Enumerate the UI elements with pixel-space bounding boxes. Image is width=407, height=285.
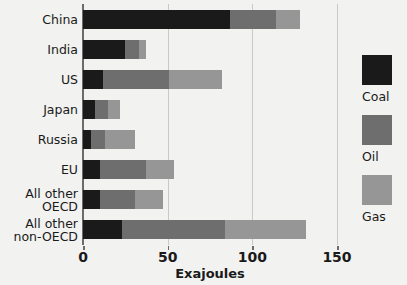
bar-rows <box>83 4 337 245</box>
bar-segment-coal <box>83 10 230 29</box>
y-axis-label: EU <box>0 163 78 176</box>
y-axis-label: Japan <box>0 103 78 116</box>
y-axis-label: US <box>0 73 78 86</box>
x-tick-label: 50 <box>158 249 177 265</box>
bar-row <box>83 220 306 239</box>
bar-row <box>83 130 135 149</box>
legend-item-coal: Coal <box>362 55 407 104</box>
bar-segment-gas <box>108 100 120 119</box>
x-tick-label: 0 <box>78 249 88 265</box>
bar-row <box>83 70 222 89</box>
bar-row <box>83 10 300 29</box>
y-axis-label: Russia <box>0 133 78 146</box>
bar-segment-oil <box>125 40 139 59</box>
bar-segment-oil <box>100 160 146 179</box>
x-axis-ticks: 050100150 <box>83 246 337 264</box>
bar-segment-oil <box>91 130 105 149</box>
bar-segment-coal <box>83 40 125 59</box>
legend-label-coal: Coal <box>362 89 407 104</box>
bar-segment-gas <box>135 190 162 209</box>
plot-area <box>83 4 337 245</box>
x-axis-title: Exajoules <box>83 266 337 281</box>
legend-item-oil: Oil <box>362 115 407 164</box>
bar-segment-gas <box>225 220 306 239</box>
bar-segment-oil <box>100 190 136 209</box>
y-axis-label: All other OECD <box>0 187 78 213</box>
x-tick-label: 150 <box>322 249 351 265</box>
bar-segment-coal <box>83 130 91 149</box>
bar-segment-gas <box>105 130 135 149</box>
bar-segment-gas <box>146 160 175 179</box>
bar-segment-coal <box>83 160 100 179</box>
bar-segment-oil <box>230 10 276 29</box>
y-axis-label: All other non-OECD <box>0 217 78 243</box>
bar-segment-coal <box>83 70 103 89</box>
bar-segment-coal <box>83 220 122 239</box>
x-tick-label: 100 <box>238 249 267 265</box>
bar-segment-gas <box>139 40 146 59</box>
legend-swatch-coal <box>362 55 392 85</box>
bar-segment-coal <box>83 190 100 209</box>
bar-row <box>83 190 163 209</box>
legend-label-gas: Gas <box>362 209 407 224</box>
legend-swatch-gas <box>362 175 392 205</box>
bar-segment-oil <box>103 70 169 89</box>
legend-item-gas: Gas <box>362 175 407 224</box>
bar-row <box>83 40 146 59</box>
stacked-bar-chart: ChinaIndiaUSJapanRussiaEUAll other OECDA… <box>0 0 407 285</box>
bar-segment-gas <box>169 70 221 89</box>
y-axis-label: India <box>0 43 78 56</box>
gridline-150 <box>337 4 338 245</box>
bar-segment-oil <box>122 220 225 239</box>
bar-segment-oil <box>95 100 109 119</box>
bar-segment-coal <box>83 100 95 119</box>
legend-swatch-oil <box>362 115 392 145</box>
bar-row <box>83 100 120 119</box>
y-axis-label: China <box>0 13 78 26</box>
bar-segment-gas <box>276 10 300 29</box>
legend-label-oil: Oil <box>362 149 407 164</box>
bar-row <box>83 160 174 179</box>
y-axis-category-labels: ChinaIndiaUSJapanRussiaEUAll other OECDA… <box>0 4 78 245</box>
